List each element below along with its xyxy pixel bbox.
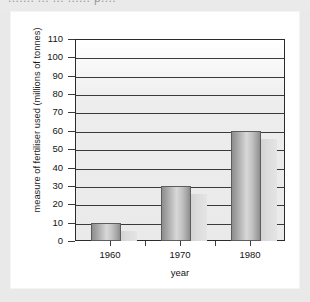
x-axis-tick-label: 1970 bbox=[150, 249, 210, 260]
bar-1980 bbox=[11, 12, 299, 241]
bar-front-face bbox=[231, 131, 261, 241]
x-axis-tick-label: 1960 bbox=[80, 249, 140, 260]
bar-depth-face bbox=[260, 139, 277, 241]
x-axis-separator-tick bbox=[215, 241, 216, 246]
x-axis-separator-tick bbox=[145, 241, 146, 246]
y-axis-tick-mark bbox=[68, 241, 75, 242]
clipped-header-text-strip: ....... ... ... ...... p.... bbox=[0, 0, 310, 12]
clipped-header-text: ....... ... ... ...... p.... bbox=[8, 0, 116, 5]
x-axis-tick-mark bbox=[250, 241, 251, 246]
x-axis-title: year bbox=[75, 267, 285, 278]
chart-card: measure of fertiliser used (millions of … bbox=[11, 12, 299, 288]
x-axis-tick-mark bbox=[110, 241, 111, 246]
x-axis-tick-label: 1980 bbox=[220, 249, 280, 260]
bar-chart-figure: measure of fertiliser used (millions of … bbox=[11, 12, 299, 288]
x-axis-tick-mark bbox=[180, 241, 181, 246]
